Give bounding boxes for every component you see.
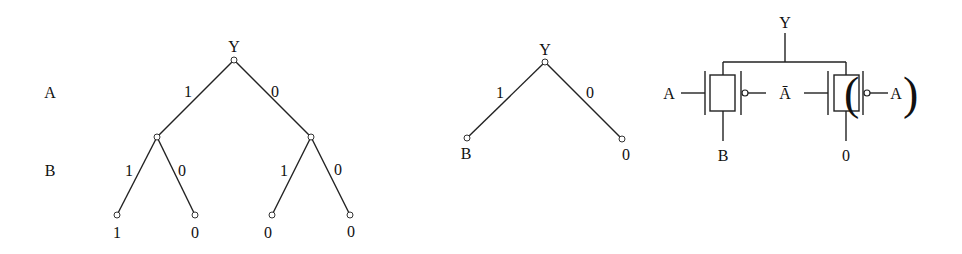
data-input-label: 0 — [842, 147, 850, 164]
channel-box — [710, 75, 735, 111]
tree-leaf — [464, 135, 470, 141]
leaf-value: 0 — [347, 223, 355, 240]
tree-edge — [157, 137, 195, 215]
tree-edge — [467, 62, 545, 138]
tree-edge — [272, 137, 311, 215]
row-label-b: B — [45, 162, 56, 179]
leaf-value: 0 — [622, 146, 630, 163]
output-label: Y — [779, 14, 791, 31]
tree-root-label: Y — [228, 38, 240, 55]
leaf-value: 0 — [264, 224, 272, 241]
tree-leaf — [269, 212, 275, 218]
tree-edge — [311, 137, 350, 215]
edge-label: 1 — [184, 83, 192, 100]
pmos-gate-input-label: Ā — [779, 85, 791, 102]
tree-node-root — [231, 57, 237, 63]
edge-label: 0 — [334, 161, 342, 178]
edge-label: 0 — [178, 162, 186, 179]
edge-label: 1 — [496, 84, 504, 101]
transmission-gate-2: ( A ) 0 — [804, 62, 918, 164]
tree-node — [154, 134, 160, 140]
inversion-bubble-icon — [742, 90, 748, 96]
reduced-tree: Y 1 0 B 0 — [461, 41, 630, 163]
tree-edge — [545, 62, 622, 139]
edge-label: 0 — [271, 83, 279, 100]
decision-tree: Y A B 1 0 1 0 1 0 1 0 0 0 — [44, 38, 355, 241]
inversion-bubble-icon — [864, 90, 870, 96]
open-paren: ( — [844, 68, 859, 119]
data-input-label: B — [718, 147, 729, 164]
edge-label: 1 — [280, 162, 288, 179]
tree-leaf — [347, 212, 353, 218]
nmos-gate-input-label: A — [663, 85, 675, 102]
edge-label: 0 — [586, 84, 594, 101]
tree-leaf — [114, 212, 120, 218]
transmission-gate-1: A Ā B — [663, 62, 791, 164]
leaf-value: 0 — [191, 224, 199, 241]
reduced-root-label: Y — [539, 41, 551, 58]
tree-leaf — [192, 212, 198, 218]
edge-label: 1 — [125, 162, 133, 179]
tree-edge — [117, 137, 157, 215]
tree-leaf — [619, 136, 625, 142]
row-label-a: A — [44, 84, 56, 101]
leaf-value: 1 — [113, 224, 121, 241]
diagram-canvas: Y A B 1 0 1 0 1 0 1 0 0 0 Y 1 — [0, 0, 962, 254]
pmos-gate-input-label: A — [890, 85, 902, 102]
transmission-gate-circuit: Y A Ā B ( A ) — [663, 14, 918, 164]
close-paren: ) — [903, 68, 918, 119]
leaf-value: B — [461, 145, 472, 162]
tree-node — [308, 134, 314, 140]
tree-edge — [157, 60, 234, 137]
tree-node-root — [542, 59, 548, 65]
